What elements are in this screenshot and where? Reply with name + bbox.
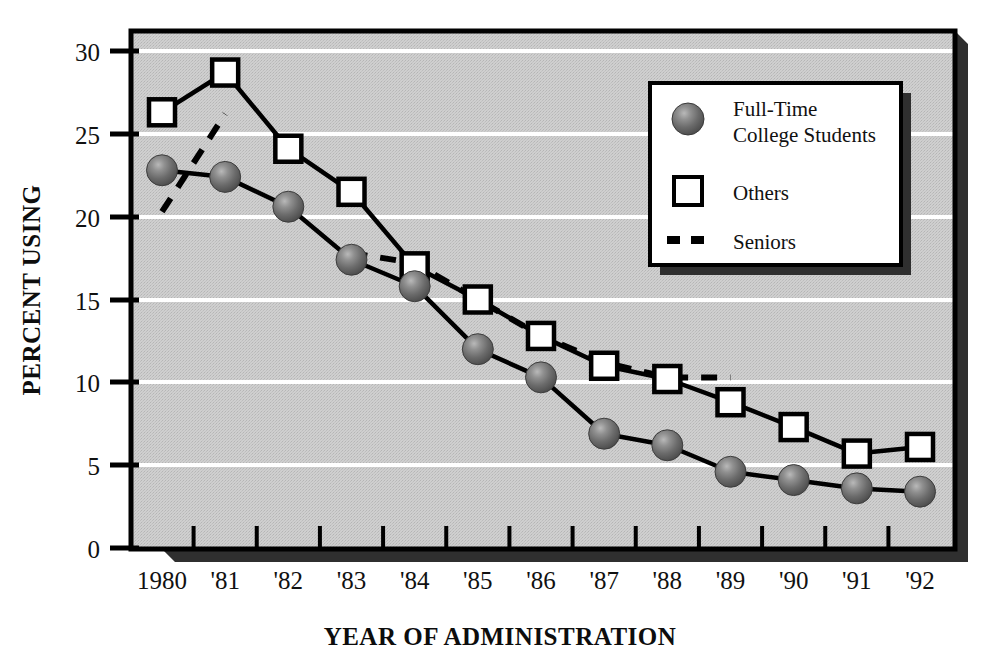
xtick-label-7: '87: [589, 567, 619, 594]
marker-sphere-10: [778, 465, 809, 496]
marker-sphere-4: [399, 271, 430, 302]
marker-sphere-1: [210, 161, 241, 192]
marker-square-1: [212, 60, 238, 86]
marker-sphere-8: [652, 430, 683, 461]
marker-square-3: [339, 179, 365, 205]
marker-square-2: [275, 136, 301, 162]
legend: Full-Time College Students Others Senior…: [650, 83, 911, 275]
ytick-label-10: 10: [75, 370, 100, 397]
xtick-label-1: '81: [210, 567, 240, 594]
legend-label-seniors: Seniors: [733, 230, 796, 254]
chart-canvas: 30 25 20 15 10 5 0 PERCENT USING 1980'81…: [0, 0, 999, 661]
xtick-label-4: '84: [400, 567, 430, 594]
marker-square-7: [591, 353, 617, 379]
xtick-label-9: '89: [716, 567, 746, 594]
xtick-label-11: '91: [842, 567, 872, 594]
xtick-label-8: '88: [653, 567, 683, 594]
ytick-label-15: 15: [75, 288, 100, 315]
marker-sphere-6: [526, 362, 557, 393]
y-axis-title: PERCENT USING: [18, 185, 45, 396]
legend-marker-open-square-icon: [674, 177, 702, 205]
marker-sphere-11: [841, 473, 872, 504]
marker-sphere-9: [715, 456, 746, 487]
marker-sphere-3: [336, 244, 367, 275]
marker-square-12: [907, 434, 933, 460]
ytick-label-25: 25: [75, 122, 100, 149]
marker-sphere-7: [589, 418, 620, 449]
xtick-label-10: '90: [779, 567, 809, 594]
marker-square-10: [781, 414, 807, 440]
xtick-label-3: '83: [337, 567, 367, 594]
legend-label-others: Others: [733, 181, 789, 205]
xtick-label-12: '92: [905, 567, 935, 594]
xtick-label-2: '82: [274, 567, 304, 594]
chart-figure: 30 25 20 15 10 5 0 PERCENT USING 1980'81…: [0, 0, 999, 661]
marker-square-8: [654, 366, 680, 392]
legend-marker-filled-sphere-icon: [672, 103, 704, 135]
ytick-label-0: 0: [88, 536, 101, 563]
xtick-label-5: '85: [463, 567, 493, 594]
legend-label-college-line1: Full-Time: [733, 97, 817, 121]
ytick-label-30: 30: [75, 39, 100, 66]
marker-sphere-2: [273, 191, 304, 222]
marker-square-6: [528, 323, 554, 349]
marker-square-5: [465, 287, 491, 313]
marker-square-11: [844, 441, 870, 467]
marker-sphere-5: [462, 334, 493, 365]
marker-sphere-0: [147, 155, 178, 186]
ytick-label-20: 20: [75, 205, 100, 232]
marker-sphere-12: [905, 476, 936, 507]
x-axis-title: YEAR OF ADMINISTRATION: [324, 623, 677, 650]
xtick-label-0: 1980: [137, 567, 187, 594]
legend-label-college-line2: College Students: [733, 123, 876, 147]
marker-square-9: [718, 389, 744, 415]
marker-square-0: [149, 99, 175, 125]
ytick-label-5: 5: [88, 453, 101, 480]
xtick-label-6: '86: [526, 567, 556, 594]
